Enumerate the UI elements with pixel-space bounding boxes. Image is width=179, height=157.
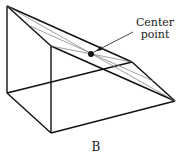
label-line-2: point: [133, 29, 177, 41]
center-point-dot: [88, 51, 94, 57]
center-point-label: Center point: [133, 17, 177, 41]
figure-caption: B: [88, 141, 104, 153]
